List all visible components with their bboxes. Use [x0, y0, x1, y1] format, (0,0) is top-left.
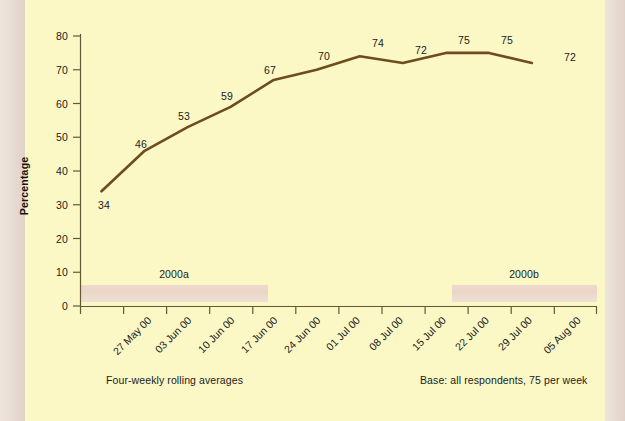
data-label: 75	[495, 34, 519, 46]
y-tick-label: 0	[44, 300, 68, 312]
y-tick-label: 60	[44, 98, 68, 110]
data-label: 67	[258, 64, 282, 76]
data-label: 72	[558, 51, 582, 63]
data-label: 53	[172, 110, 196, 122]
data-label: 74	[366, 37, 390, 49]
footnote-left: Four-weekly rolling averages	[106, 374, 243, 386]
data-series-line	[102, 53, 532, 191]
y-tick-label: 30	[44, 199, 68, 211]
y-tick-label: 40	[44, 165, 68, 177]
y-tick-label: 80	[44, 30, 68, 42]
y-axis-title: Percentage	[18, 146, 30, 226]
data-label: 34	[92, 199, 116, 211]
data-label: 70	[312, 50, 336, 62]
chart-screenshot: 2000a 2000b	[0, 0, 625, 421]
footnote-right: Base: all respondents, 75 per week	[420, 374, 587, 386]
data-label: 46	[129, 138, 153, 150]
y-tick-label: 50	[44, 131, 68, 143]
data-label: 75	[452, 34, 476, 46]
y-tick-label: 20	[44, 233, 68, 245]
data-label: 72	[409, 44, 433, 56]
y-tick-label: 10	[44, 266, 68, 278]
y-tick-label: 70	[44, 64, 68, 76]
data-label: 59	[215, 90, 239, 102]
